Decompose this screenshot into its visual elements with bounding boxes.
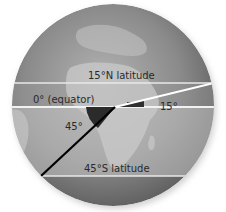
label-15n-latitude: 15°N latitude (88, 70, 155, 81)
label-equator: 0° (equator) (33, 94, 95, 105)
label-45s-latitude: 45°S latitude (84, 163, 150, 174)
label-angle-45: 45° (65, 121, 83, 132)
globe (0, 4, 226, 206)
latitude-globe-diagram: 15°N latitude 0° (equator) 15° 45° 45°S … (0, 0, 226, 212)
label-angle-15: 15° (160, 101, 178, 112)
